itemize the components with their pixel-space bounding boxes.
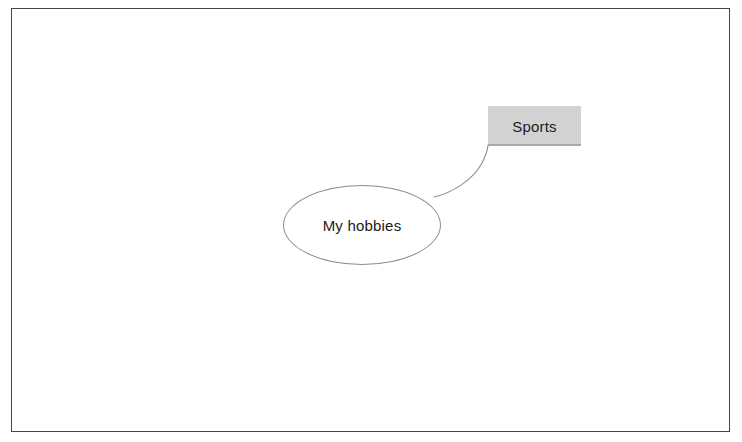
node-label-root: My hobbies xyxy=(323,218,402,233)
mindmap-application: My hobbies Sports xyxy=(0,0,742,442)
diagram-canvas-frame: My hobbies Sports xyxy=(11,8,730,432)
connector-root-to-sports[interactable] xyxy=(434,145,488,197)
mindmap-node-sports[interactable]: Sports xyxy=(488,106,581,146)
node-label-sports: Sports xyxy=(512,119,557,134)
mindmap-node-root[interactable]: My hobbies xyxy=(283,185,441,265)
mindmap-surface[interactable]: My hobbies Sports xyxy=(12,9,731,433)
